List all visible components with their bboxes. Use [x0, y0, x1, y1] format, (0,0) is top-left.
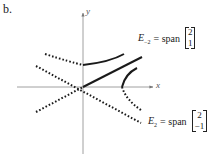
- axes: [17, 13, 153, 154]
- phase-portrait: [0, 0, 222, 162]
- vector-e-neg2: 2 1: [185, 27, 196, 49]
- trajectory-right: [122, 68, 141, 110]
- eigenspace-label-e2: E2 = span 2 −1: [148, 110, 207, 132]
- y-axis-label: y: [86, 6, 90, 16]
- vector-e2: 2 −1: [192, 110, 208, 132]
- trajectory-top: [45, 54, 124, 65]
- eigenspace-label-e-neg2: E−2 = span 2 1: [138, 27, 195, 49]
- x-axis-label: x: [156, 80, 160, 90]
